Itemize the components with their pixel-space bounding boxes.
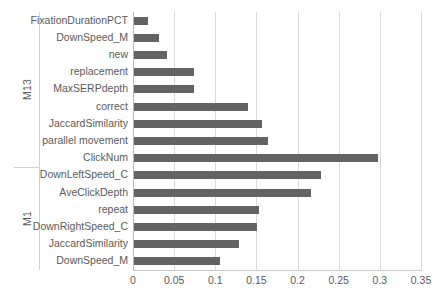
x-tick-label: 0.2 xyxy=(290,274,305,286)
gridline xyxy=(339,12,340,270)
x-axis-line xyxy=(133,270,422,271)
bar xyxy=(134,103,248,111)
category-label: DownSpeed_M xyxy=(56,255,128,266)
category-label: replacement xyxy=(70,66,128,77)
bar xyxy=(134,34,159,42)
category-label: DownLeftSpeed_C xyxy=(40,169,128,180)
category-label: DownSpeed_M xyxy=(56,32,128,43)
category-label: new xyxy=(109,49,128,60)
bar xyxy=(134,17,148,25)
plot-area xyxy=(133,12,421,270)
bar xyxy=(134,206,259,214)
category-label: JaccardSimilarity xyxy=(49,238,128,249)
bar xyxy=(134,85,194,93)
category-label: parallel movement xyxy=(42,135,128,146)
x-tick-label: 0.1 xyxy=(208,274,223,286)
x-tick-label: 0.35 xyxy=(411,274,431,286)
x-tick-label: 0.05 xyxy=(164,274,184,286)
category-label: AveClickDepth xyxy=(59,187,128,198)
bar xyxy=(134,51,167,59)
category-label: JaccardSimilarity xyxy=(49,118,128,129)
x-tick-label: 0.15 xyxy=(246,274,266,286)
category-label: correct xyxy=(96,101,128,112)
group-label: M13 xyxy=(21,79,33,100)
bar xyxy=(134,154,378,162)
bar xyxy=(134,240,239,248)
gridline xyxy=(298,12,299,270)
category-label: repeat xyxy=(98,204,128,215)
group-M13: M13 xyxy=(14,12,40,167)
x-tick-label: 0.3 xyxy=(373,274,388,286)
bar-chart: M13M1 FixationDurationPCTDownSpeed_Mnewr… xyxy=(0,0,438,302)
bar xyxy=(134,68,194,76)
bar xyxy=(134,171,321,179)
category-label: MaxSERPdepth xyxy=(53,83,128,94)
x-tick-labels: 00.050.10.150.20.250.30.35 xyxy=(133,272,422,292)
category-label: ClickNum xyxy=(83,152,128,163)
bar xyxy=(134,223,257,231)
bar xyxy=(134,120,262,128)
group-label: M1 xyxy=(21,211,33,226)
category-axis: FixationDurationPCTDownSpeed_Mnewreplace… xyxy=(40,12,132,270)
x-tick-label: 0 xyxy=(130,274,136,286)
group-separator xyxy=(14,167,40,168)
gridline xyxy=(421,12,422,270)
bar xyxy=(134,137,268,145)
category-label: DownRightSpeed_C xyxy=(33,221,128,232)
category-label: FixationDurationPCT xyxy=(31,15,128,26)
gridline xyxy=(380,12,381,270)
bar xyxy=(134,257,220,265)
group-M1: M1 xyxy=(14,167,40,270)
bar xyxy=(134,189,311,197)
x-tick-label: 0.25 xyxy=(328,274,348,286)
